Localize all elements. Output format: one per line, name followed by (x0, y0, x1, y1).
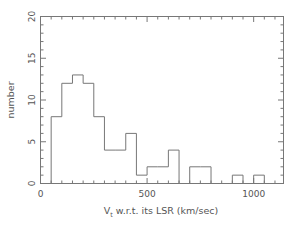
x-tick-label: 0 (38, 189, 44, 199)
y-axis-title: number (5, 81, 16, 118)
y-tick-label: 10 (27, 94, 37, 106)
y-tick-label: 20 (27, 11, 37, 23)
histogram-plot: 05001000 05101520 number Vt w.r.t. its L… (0, 0, 300, 230)
y-axis-title-text: number (5, 81, 16, 118)
y-tick-label: 0 (27, 180, 37, 186)
histogram-figure: 05001000 05101520 number Vt w.r.t. its L… (0, 0, 300, 230)
y-tick-label: 5 (27, 139, 37, 145)
y-tick-label: 15 (27, 53, 37, 64)
x-tick-label: 1000 (242, 189, 265, 199)
x-axis-title-units: w.r.t. its LSR (km/sec) (113, 205, 218, 216)
x-tick-label: 500 (138, 189, 155, 199)
